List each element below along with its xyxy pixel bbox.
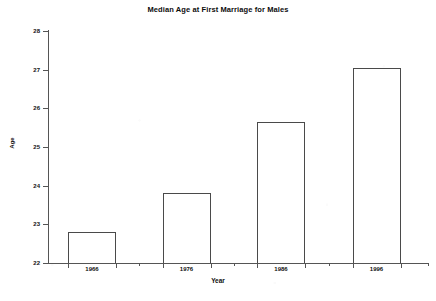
y-axis-tick-label: 28 bbox=[6, 28, 40, 34]
y-axis-tick bbox=[43, 263, 48, 264]
y-axis-tick-labels: 22232425262728 bbox=[0, 0, 40, 301]
bar bbox=[257, 122, 305, 263]
y-axis-tick-label: 23 bbox=[6, 221, 40, 227]
x-axis-line bbox=[48, 263, 429, 264]
plot-area bbox=[48, 31, 428, 263]
y-axis-tick-label: 26 bbox=[6, 105, 40, 111]
bar-chart: Median Age at First Marriage for Males 2… bbox=[0, 0, 436, 301]
x-axis-minor-tick bbox=[139, 263, 140, 266]
y-axis-tick-label: 22 bbox=[6, 260, 40, 266]
x-axis-title: Year bbox=[0, 277, 436, 284]
x-axis-minor-tick bbox=[428, 263, 429, 266]
y-axis-tick-label: 24 bbox=[6, 182, 40, 188]
x-axis-minor-tick bbox=[234, 263, 235, 266]
bar bbox=[163, 193, 211, 263]
bar bbox=[68, 232, 116, 263]
y-axis-title: Age bbox=[9, 123, 15, 163]
chart-title: Median Age at First Marriage for Males bbox=[0, 5, 436, 14]
bar bbox=[353, 68, 401, 263]
x-axis-tick-label: 1976 bbox=[162, 266, 212, 272]
x-axis-tick-label: 1996 bbox=[352, 266, 402, 272]
x-axis-minor-tick bbox=[329, 263, 330, 266]
y-axis-tick-label: 27 bbox=[6, 66, 40, 72]
x-axis-tick-label: 1966 bbox=[67, 266, 117, 272]
x-axis-tick-label: 1986 bbox=[256, 266, 306, 272]
